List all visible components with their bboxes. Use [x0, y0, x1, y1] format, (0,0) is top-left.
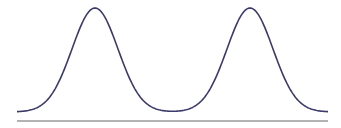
bimodal-distribution-chart	[0, 0, 341, 128]
distribution-curve	[17, 8, 328, 112]
